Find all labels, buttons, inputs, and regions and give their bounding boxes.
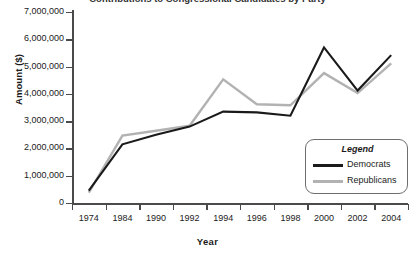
y-axis-tick-mark	[66, 67, 72, 68]
x-axis-tick-mark	[307, 204, 308, 210]
legend-box: Legend DemocratsRepublicans	[305, 139, 408, 194]
legend-label: Republicans	[347, 175, 397, 185]
x-axis-tick-label: 2004	[368, 213, 414, 223]
x-axis-tick-mark	[374, 204, 375, 210]
y-axis-tick-mark	[66, 94, 72, 95]
x-axis-title: Year	[0, 236, 415, 247]
x-axis-tick-mark	[240, 204, 241, 210]
x-axis-tick-mark	[173, 204, 174, 210]
y-axis-tick-mark	[66, 12, 72, 13]
legend-title: Legend	[306, 144, 409, 154]
x-axis-tick-mark	[72, 204, 73, 210]
x-axis-tick-mark	[274, 204, 275, 210]
x-axis-tick-mark	[206, 204, 207, 210]
legend-label: Democrats	[347, 159, 391, 169]
legend-swatch-democrats	[313, 164, 343, 167]
x-axis-tick-mark	[139, 204, 140, 210]
y-axis-tick-mark	[66, 121, 72, 122]
x-axis-tick-mark	[341, 204, 342, 210]
y-axis-tick-mark	[66, 176, 72, 177]
x-axis-tick-mark	[408, 204, 409, 210]
legend-swatch-republicans	[313, 180, 343, 183]
legend-entry: Democrats	[313, 159, 407, 172]
y-axis-tick-mark	[66, 148, 72, 149]
legend-entry: Republicans	[313, 175, 407, 188]
y-axis-tick-mark	[66, 39, 72, 40]
x-axis-tick-mark	[106, 204, 107, 210]
chart-figure: Contributions to Congressional Candidate…	[0, 0, 415, 257]
